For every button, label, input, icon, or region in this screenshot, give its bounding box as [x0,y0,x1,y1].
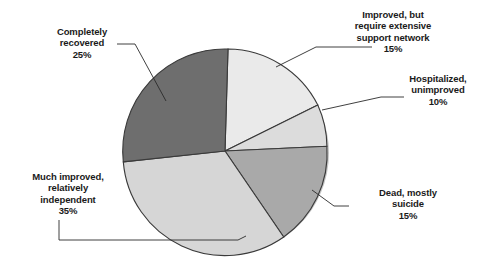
slice-label-much-improved: Much improved, relatively independent 35… [4,171,132,217]
slice-label-dead-suicide: Dead, mostly suicide 15% [348,187,468,221]
slice-label-improved-support: Improved, but require extensive support … [318,9,468,55]
slice-label-completely-recovered: Completely recovered 25% [26,26,138,60]
pie-slice-completely-recovered[interactable] [123,49,228,162]
pie-chart-figure: Improved, but require extensive support … [0,0,497,257]
slice-label-hospitalized: Hospitalized, unimproved 10% [382,73,494,107]
